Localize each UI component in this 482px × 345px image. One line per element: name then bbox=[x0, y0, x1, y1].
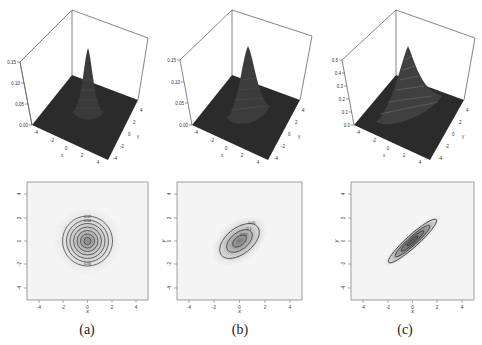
contour-label: 0.05 bbox=[249, 221, 256, 225]
y-tick: -2 bbox=[445, 144, 449, 149]
caption-b: (b) bbox=[220, 322, 260, 338]
surface-plot-b: 0.15 0.10 0.05 0.00 -4 -2 0 2 4 x 4 2 0 … bbox=[160, 0, 320, 175]
x-tick: 2 bbox=[111, 305, 114, 310]
y-tick: -4 bbox=[438, 156, 442, 161]
y-tick: 4 bbox=[140, 108, 143, 113]
x-tick: 2 bbox=[264, 305, 267, 310]
x-tick: -2 bbox=[212, 305, 216, 310]
y-tick: 0 bbox=[167, 239, 172, 242]
y-tick: -2 bbox=[17, 262, 22, 266]
x-axis-label: x bbox=[383, 153, 386, 158]
x-tick: -2 bbox=[386, 305, 390, 310]
y-tick: -4 bbox=[17, 286, 22, 290]
y-tick: -2 bbox=[341, 262, 346, 266]
x-tick: 4 bbox=[97, 160, 100, 165]
x-axis-label: x bbox=[237, 308, 242, 313]
surface-plot-a: 0.15 0.10 0.05 0.00 -4 -2 0 2 4 x 4 2 0 … bbox=[0, 0, 160, 175]
z-tick: 0.4 bbox=[335, 71, 342, 76]
x-tick: -4 bbox=[356, 130, 360, 135]
x-axis-label: x bbox=[221, 153, 224, 158]
x-tick: -4 bbox=[37, 305, 41, 310]
x-axis-label: x bbox=[410, 308, 415, 313]
z-tick: 0.1 bbox=[342, 110, 349, 115]
z-tick: 0.05 bbox=[15, 102, 24, 107]
caption-c: (c) bbox=[385, 322, 425, 338]
x-tick: 2 bbox=[436, 305, 439, 310]
x-tick: -2 bbox=[372, 138, 376, 143]
z-tick: 0.10 bbox=[11, 81, 20, 86]
z-tick: 0.15 bbox=[7, 60, 16, 65]
contour-plot-b: 0.05 0.1 0.15 4 2 0 -2 -4 -4 -2 0 2 4 y … bbox=[160, 178, 320, 313]
surface-plot-c: 0.5 0.4 0.3 0.2 0.1 0.0 -4 -2 0 2 4 x 4 … bbox=[320, 0, 482, 175]
x-tick: 4 bbox=[419, 160, 422, 165]
x-tick: 2 bbox=[403, 153, 406, 158]
y-tick: -2 bbox=[167, 262, 172, 266]
y-axis-label: y bbox=[160, 239, 166, 244]
x-tick: 2 bbox=[241, 153, 244, 158]
x-tick: -4 bbox=[361, 305, 365, 310]
y-tick: 0 bbox=[17, 239, 22, 242]
y-tick: 4 bbox=[302, 108, 305, 113]
x-tick: -2 bbox=[210, 138, 214, 143]
x-axis-label: x bbox=[61, 153, 64, 158]
y-tick: 0 bbox=[128, 132, 131, 137]
y-tick: 2 bbox=[17, 216, 22, 219]
z-tick: 0.2 bbox=[339, 97, 346, 102]
y-axis-label: y bbox=[298, 134, 301, 139]
y-axis-label: y bbox=[333, 239, 339, 244]
x-tick: 0 bbox=[387, 146, 390, 151]
contour-label: 0.06 bbox=[84, 262, 91, 266]
x-tick: 0 bbox=[225, 146, 228, 151]
y-tick: 2 bbox=[167, 216, 172, 219]
y-tick: 4 bbox=[17, 192, 22, 195]
y-tick: -2 bbox=[281, 144, 285, 149]
caption-a: (a) bbox=[67, 322, 107, 338]
y-tick: -4 bbox=[113, 156, 117, 161]
x-axis-label: x bbox=[85, 308, 90, 313]
z-tick: 0.3 bbox=[337, 84, 344, 89]
y-axis-label: y bbox=[137, 134, 140, 139]
z-tick: 0.0 bbox=[344, 123, 351, 128]
x-tick: -4 bbox=[187, 305, 191, 310]
x-tick: -4 bbox=[34, 130, 38, 135]
z-tick: 0.00 bbox=[179, 123, 188, 128]
y-tick: -2 bbox=[120, 144, 124, 149]
x-tick: 4 bbox=[461, 305, 464, 310]
y-tick: 2 bbox=[341, 216, 346, 219]
z-tick: 0.05 bbox=[175, 101, 184, 106]
x-tick: -2 bbox=[50, 138, 54, 143]
z-tick: 0.5 bbox=[332, 58, 339, 63]
x-tick: 2 bbox=[81, 153, 84, 158]
y-tick: 0 bbox=[452, 132, 455, 137]
x-tick: -4 bbox=[194, 130, 198, 135]
y-tick: 2 bbox=[133, 120, 136, 125]
y-tick: 4 bbox=[466, 108, 469, 113]
y-tick: 0 bbox=[288, 132, 291, 137]
y-tick: 4 bbox=[167, 192, 172, 195]
y-axis-label: y bbox=[462, 134, 465, 139]
y-tick: -4 bbox=[167, 286, 172, 290]
y-tick: 2 bbox=[295, 120, 298, 125]
contour-label: 0.15 bbox=[241, 233, 248, 237]
z-tick: 0.15 bbox=[167, 58, 176, 63]
x-tick: 4 bbox=[135, 305, 138, 310]
y-tick: 2 bbox=[459, 120, 462, 125]
x-tick: 0 bbox=[65, 146, 68, 151]
x-tick: 4 bbox=[257, 160, 260, 165]
contour-plot-a: 0.02 0.04 0.06 4 2 0 -2 -4 -4 -2 0 2 4 x bbox=[0, 178, 160, 313]
y-tick: -4 bbox=[341, 286, 346, 290]
contour-label: 0.1 bbox=[247, 227, 252, 231]
z-tick: 0.00 bbox=[19, 123, 28, 128]
x-tick: 4 bbox=[289, 305, 292, 310]
y-tick: 0 bbox=[341, 239, 346, 242]
y-tick: 4 bbox=[341, 192, 346, 195]
z-tick: 0.10 bbox=[171, 80, 180, 85]
x-tick: -2 bbox=[61, 305, 65, 310]
contour-plot-c: 4 2 0 -2 -4 -4 -2 0 2 4 y x bbox=[320, 178, 482, 313]
y-tick: -4 bbox=[274, 156, 278, 161]
contour-label: 0.04 bbox=[84, 219, 91, 223]
